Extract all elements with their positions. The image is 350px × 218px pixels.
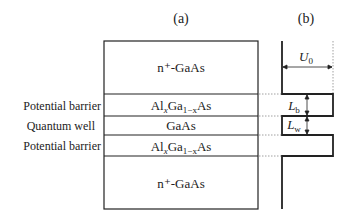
- layer-barrier-bottom: AlxGa1−xAs: [151, 139, 212, 156]
- layer-barrier-top: AlxGa1−xAs: [151, 98, 212, 115]
- lb-lw-arrows: [305, 95, 309, 134]
- panel-b-label: (b): [298, 11, 315, 27]
- panel-a-label: (a): [173, 11, 189, 27]
- layer-bottom-contact: n⁺-GaAs: [157, 176, 204, 191]
- lw-label: Lw: [286, 117, 301, 134]
- label-quantum-well: Quantum well: [27, 119, 96, 133]
- label-potential-barrier-top: Potential barrier: [23, 99, 101, 113]
- guide-lines: [259, 41, 333, 156]
- layer-top-contact: n⁺-GaAs: [157, 60, 204, 75]
- lb-label: Lb: [287, 98, 300, 115]
- layer-well: GaAs: [166, 118, 196, 133]
- double-barrier-diagram: (a) (b) n⁺-GaAs AlxGa1−xAs GaAs AlxGa1−x…: [0, 0, 350, 218]
- label-potential-barrier-bottom: Potential barrier: [23, 139, 101, 153]
- u0-label: U0: [299, 49, 313, 66]
